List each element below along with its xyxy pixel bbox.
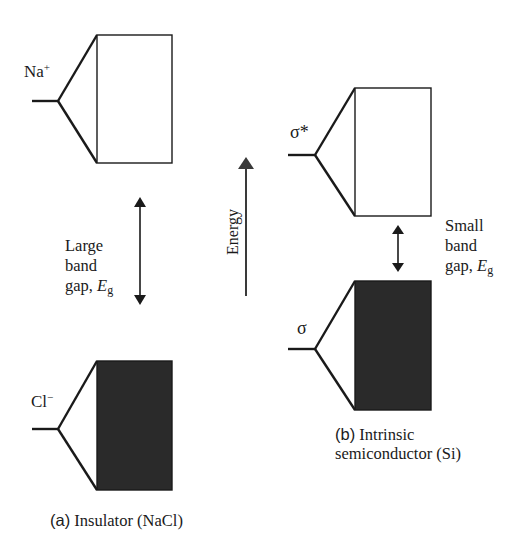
large-band-gap-label: Large band gap, Eg [65, 236, 113, 296]
cl-label-charge: − [47, 391, 53, 403]
na-conduction-band [97, 35, 172, 163]
sigma-star-level-group [288, 88, 431, 216]
small-gap-line-2: band [445, 236, 493, 256]
na-level-group [32, 35, 172, 163]
large-gap-line-2: band [65, 256, 113, 276]
na-branch-upper [58, 35, 97, 101]
sigma-star-label: σ* [290, 122, 309, 142]
sigma-star-conduction-band [355, 88, 431, 216]
caption-b-line1: Intrinsic [359, 425, 414, 444]
cl-level-group [32, 361, 172, 490]
small-gap-line-3: gap, Eg [445, 256, 493, 276]
sigma-level-group [288, 281, 431, 410]
cl-label-base: Cl [31, 392, 47, 411]
cl-branch-lower [58, 429, 97, 490]
cl-ion-label: Cl− [31, 392, 53, 412]
caption-a-prefix: (a) [50, 511, 70, 529]
caption-b-prefix: (b) [335, 425, 355, 443]
gap-prefix: gap, [445, 256, 477, 275]
energy-symbol-subscript: g [107, 283, 113, 297]
energy-symbol: E [477, 256, 487, 275]
na-label-charge: + [44, 61, 50, 73]
na-label-base: Na [24, 62, 44, 81]
na-branch-lower [58, 101, 97, 163]
sigma-label: σ [297, 318, 307, 338]
energy-symbol-subscript: g [487, 263, 493, 277]
small-band-gap-label: Small band gap, Eg [445, 216, 493, 276]
small-gap-line-1: Small [445, 216, 493, 236]
sigma-star-branch-upper [315, 88, 355, 155]
large-gap-line-1: Large [65, 236, 113, 256]
large-gap-arrow [134, 197, 146, 305]
cl-valence-band [97, 361, 172, 490]
sigma-branch-upper [315, 281, 355, 349]
small-gap-arrow [392, 225, 404, 272]
caption-b: (b) Intrinsic [335, 424, 414, 445]
large-gap-line-3: gap, Eg [65, 276, 113, 296]
energy-axis-label: Energy [223, 202, 243, 262]
gap-prefix: gap, [65, 276, 97, 295]
caption-a: (a) Insulator (NaCl) [50, 510, 183, 531]
caption-b-line2: semiconductor (Si) [335, 444, 461, 464]
cl-branch-upper [58, 361, 97, 429]
energy-symbol: E [97, 276, 107, 295]
sigma-branch-lower [315, 349, 355, 410]
sigma-star-branch-lower [315, 155, 355, 216]
na-ion-label: Na+ [24, 62, 50, 82]
caption-a-text: Insulator (NaCl) [74, 511, 183, 530]
sigma-valence-band [355, 281, 431, 410]
